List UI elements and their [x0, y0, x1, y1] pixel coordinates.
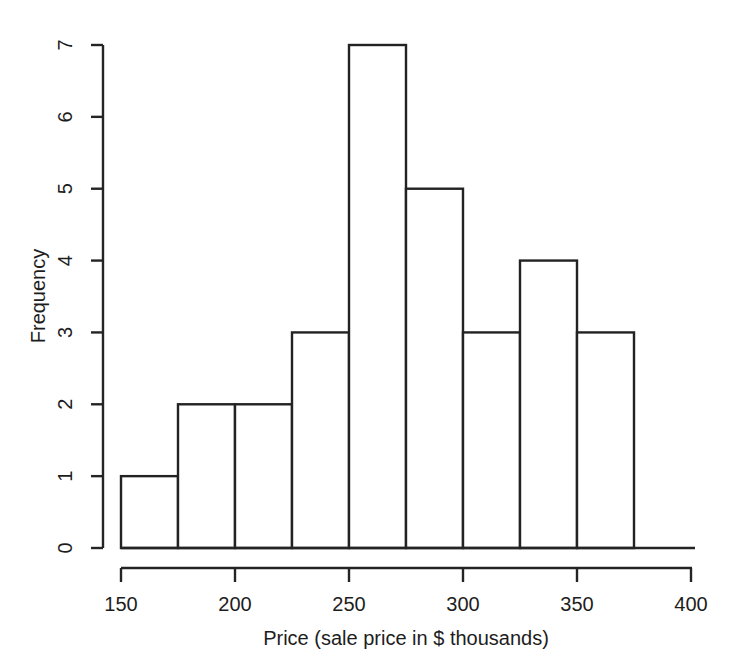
- y-tick-label: 3: [54, 327, 76, 338]
- histogram-bar: [121, 476, 178, 548]
- x-tick-label: 400: [674, 593, 707, 615]
- histogram-bar: [463, 332, 520, 548]
- y-tick-label: 5: [54, 183, 76, 194]
- y-tick-label: 7: [54, 39, 76, 50]
- y-axis-ticks: [91, 45, 103, 548]
- x-tick-label: 250: [332, 593, 365, 615]
- x-tick-label: 300: [446, 593, 479, 615]
- y-axis-tick-labels: 01234567: [54, 39, 76, 553]
- x-axis-tick-labels: 150200250300350400: [104, 593, 707, 615]
- histogram-bar: [178, 404, 235, 548]
- y-tick-label: 2: [54, 399, 76, 410]
- x-tick-label: 200: [218, 593, 251, 615]
- y-tick-label: 6: [54, 111, 76, 122]
- histogram-bar: [520, 261, 577, 548]
- x-axis-ticks: [121, 568, 691, 582]
- y-tick-label: 4: [54, 255, 76, 266]
- y-tick-label: 0: [54, 542, 76, 553]
- histogram-bar: [292, 332, 349, 548]
- y-axis: 01234567 Frequency: [27, 39, 103, 553]
- histogram-bar: [349, 45, 406, 548]
- x-axis-title: Price (sale price in $ thousands): [263, 627, 549, 649]
- y-tick-label: 1: [54, 471, 76, 482]
- x-tick-label: 350: [560, 593, 593, 615]
- histogram-figure: 01234567 Frequency 150200250300350400 Pr…: [0, 0, 742, 671]
- histogram-bars: [121, 45, 634, 548]
- y-axis-title: Frequency: [27, 249, 49, 344]
- histogram-plot: 01234567 Frequency 150200250300350400 Pr…: [0, 0, 742, 671]
- x-axis: 150200250300350400 Price (sale price in …: [104, 568, 707, 649]
- x-tick-label: 150: [104, 593, 137, 615]
- histogram-bar: [577, 332, 634, 548]
- histogram-bar: [406, 189, 463, 548]
- histogram-bar: [235, 404, 292, 548]
